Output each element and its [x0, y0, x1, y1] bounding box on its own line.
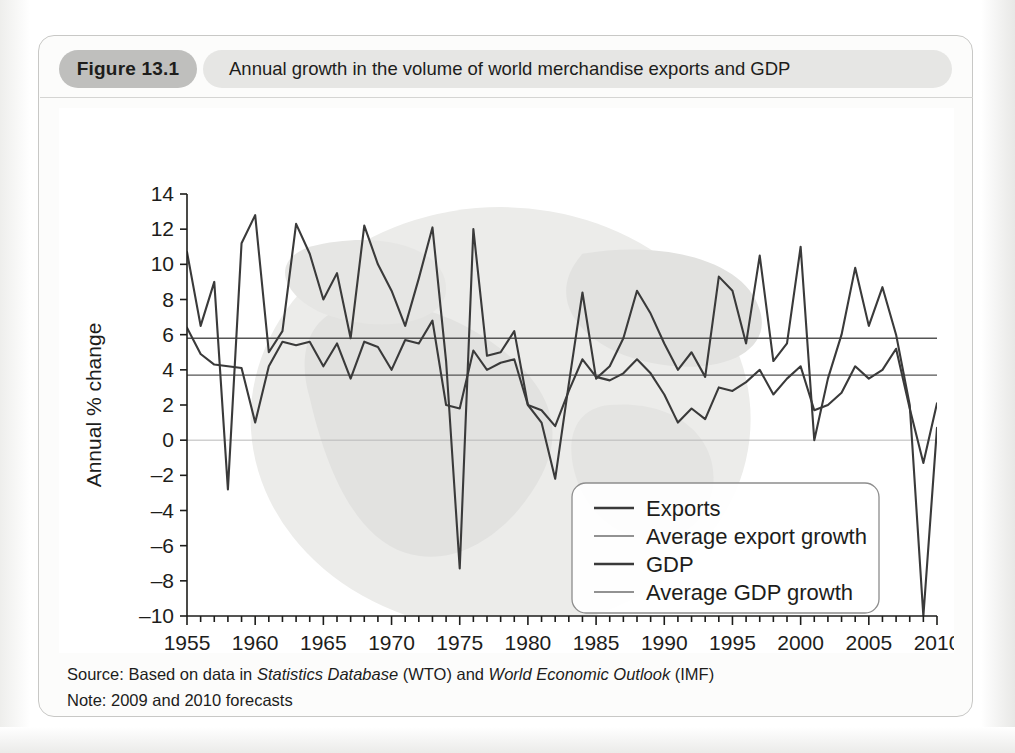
y-axis-title: Annual % change [82, 323, 105, 488]
svg-text:2: 2 [162, 393, 174, 416]
scan-edge-right [981, 0, 1015, 753]
svg-text:1985: 1985 [573, 631, 620, 653]
source-suffix: (IMF) [670, 665, 714, 683]
figure-header: Figure 13.1 Annual growth in the volume … [59, 50, 952, 88]
svg-text:Average export growth: Average export growth [646, 524, 867, 549]
svg-text:Annual % change: Annual % change [82, 323, 105, 488]
svg-text:–6: –6 [151, 534, 174, 557]
svg-text:1995: 1995 [709, 631, 756, 653]
figure-container: Figure 13.1 Annual growth in the volume … [38, 35, 973, 717]
svg-text:1980: 1980 [505, 631, 552, 653]
chart-plot-area: –10–8–6–4–202468101214195519601965197019… [59, 108, 954, 653]
scan-edge-left [0, 0, 30, 753]
svg-text:–8: –8 [151, 569, 174, 592]
svg-text:8: 8 [162, 288, 174, 311]
svg-text:Average GDP growth: Average GDP growth [646, 580, 853, 605]
scanned-page: Figure 13.1 Annual growth in the volume … [0, 0, 1015, 753]
svg-text:6: 6 [162, 323, 174, 346]
source-italic-statistics-database: Statistics Database [257, 665, 398, 683]
svg-text:14: 14 [151, 182, 175, 205]
svg-text:Exports: Exports [646, 496, 721, 521]
svg-text:–2: –2 [151, 463, 174, 486]
svg-text:2010: 2010 [914, 631, 954, 653]
svg-text:1990: 1990 [641, 631, 688, 653]
figure-footer: Source: Based on data in Statistics Data… [67, 662, 947, 713]
figure-note: Note: 2009 and 2010 forecasts [67, 688, 947, 714]
figure-title: Annual growth in the volume of world mer… [203, 50, 952, 88]
svg-text:1955: 1955 [164, 631, 211, 653]
figure-source: Source: Based on data in Statistics Data… [67, 662, 947, 688]
svg-text:1965: 1965 [300, 631, 347, 653]
svg-text:4: 4 [162, 358, 174, 381]
svg-text:GDP: GDP [646, 552, 694, 577]
svg-text:1960: 1960 [232, 631, 279, 653]
svg-text:1975: 1975 [436, 631, 483, 653]
figure-number-badge: Figure 13.1 [59, 50, 197, 88]
svg-text:–10: –10 [139, 604, 174, 627]
svg-text:1970: 1970 [368, 631, 415, 653]
header-divider [40, 97, 973, 98]
svg-text:–4: –4 [151, 499, 175, 522]
svg-text:2005: 2005 [845, 631, 892, 653]
svg-text:12: 12 [151, 217, 174, 240]
source-prefix: Source: Based on data in [67, 665, 257, 683]
source-middle: (WTO) and [398, 665, 488, 683]
scan-edge-bottom [0, 727, 1015, 753]
source-italic-world-economic-outlook: World Economic Outlook [489, 665, 671, 683]
svg-text:2000: 2000 [777, 631, 824, 653]
line-chart: –10–8–6–4–202468101214195519601965197019… [59, 108, 954, 653]
svg-text:0: 0 [162, 428, 174, 451]
chart-legend: ExportsAverage export growthGDPAverage G… [572, 483, 879, 613]
svg-text:10: 10 [151, 252, 174, 275]
